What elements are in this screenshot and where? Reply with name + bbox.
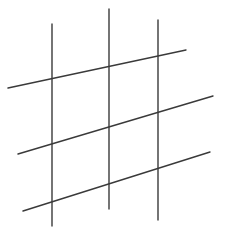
oblique-lines-group <box>8 50 213 211</box>
oblique-line-2 <box>18 96 213 154</box>
oblique-line-3 <box>23 152 210 211</box>
oblique-line-1 <box>8 50 186 88</box>
parallel-lines-diagram <box>0 0 225 240</box>
